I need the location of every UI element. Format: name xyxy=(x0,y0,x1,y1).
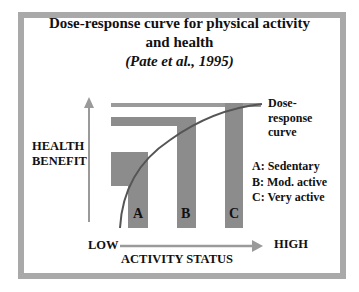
legend-item-a: A: Sedentary xyxy=(252,159,320,173)
y-axis-label-line-1: HEALTH xyxy=(32,139,84,153)
bar-c-label: C xyxy=(229,206,239,222)
x-axis-arrowhead xyxy=(252,240,263,252)
legend-item-c: C: Very active xyxy=(252,190,325,204)
bar-b-label: B xyxy=(181,206,190,222)
legend: A: Sedentary B: Mod. active C: Very acti… xyxy=(252,159,327,206)
curve-label-line-1: Dose- xyxy=(268,96,297,110)
bar-a-label: A xyxy=(133,206,143,222)
x-axis-title: ACTIVITY STATUS xyxy=(121,252,233,267)
curve-label-line-2: response xyxy=(268,111,312,125)
y-axis-label-line-2: BENEFIT xyxy=(32,154,87,168)
y-axis-arrowhead xyxy=(84,97,94,108)
x-axis-high-label: HIGH xyxy=(274,237,308,252)
x-axis-low-label: LOW xyxy=(88,238,119,253)
curve-label: Dose- response curve xyxy=(268,96,312,140)
legend-item-b: B: Mod. active xyxy=(252,175,327,189)
curve-label-line-3: curve xyxy=(268,125,297,139)
y-axis-label: HEALTH BENEFIT xyxy=(32,139,87,169)
